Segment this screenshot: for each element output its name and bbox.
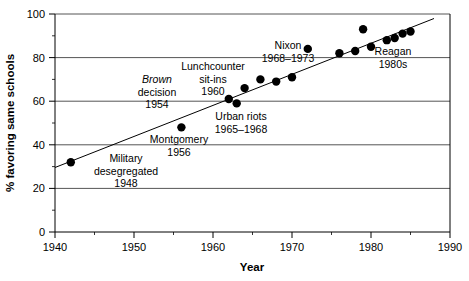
data-point — [398, 29, 406, 37]
data-point — [288, 73, 296, 81]
annotation-urban-riots-line1: Urban riots — [197, 110, 285, 123]
annotation-urban-riots-line2: 1965–1968 — [197, 123, 285, 136]
x-tick-label-1970: 1970 — [280, 241, 304, 253]
x-tick-label-1940: 1940 — [43, 241, 67, 253]
data-point — [359, 25, 367, 33]
annotation-lunchcounter-line1: Lunchcounter — [172, 60, 254, 73]
y-tick-label-40: 40 — [33, 139, 45, 151]
y-tick-label-80: 80 — [33, 52, 45, 64]
y-tick-marks — [49, 14, 55, 232]
annotation-lunchcounter-line3: 1960 — [172, 85, 254, 98]
annotation-brown-line3: 1954 — [122, 98, 192, 111]
y-axis-title: % favoring same schools — [4, 54, 16, 192]
x-tick-labels: 1940 1950 1960 1970 1980 1990 — [43, 241, 462, 253]
annotation-urban-riots: Urban riots 1965–1968 — [197, 110, 285, 135]
annotation-reagan-line1: Reagan — [358, 45, 428, 58]
y-tick-label-20: 20 — [33, 182, 45, 194]
data-point — [391, 34, 399, 42]
data-point — [335, 49, 343, 57]
x-axis-title: Year — [240, 261, 265, 273]
x-tick-label-1960: 1960 — [201, 241, 225, 253]
annotation-reagan: Reagan 1980s — [358, 45, 428, 70]
chart-figure: 100 80 60 40 20 0 1940 1950 1960 1970 19… — [0, 0, 469, 281]
data-point — [383, 36, 391, 44]
annotation-nixon-line2: 1968–1973 — [246, 52, 330, 65]
y-tick-label-100: 100 — [27, 8, 45, 20]
data-point — [67, 158, 75, 166]
data-point — [256, 75, 264, 83]
annotation-military-line2: desegregated — [78, 165, 174, 178]
data-point — [177, 123, 185, 131]
y-tick-label-0: 0 — [39, 226, 45, 238]
data-point — [233, 99, 241, 107]
annotation-nixon-line1: Nixon — [246, 39, 330, 52]
x-tick-label-1980: 1980 — [359, 241, 383, 253]
annotation-lunchcounter-line2: sit-ins — [172, 73, 254, 86]
annotation-nixon: Nixon 1968–1973 — [246, 39, 330, 64]
x-tick-label-1950: 1950 — [122, 241, 146, 253]
annotation-montgomery: Montgomery 1956 — [134, 133, 224, 158]
data-point — [406, 27, 414, 35]
y-tick-label-60: 60 — [33, 95, 45, 107]
data-point — [272, 77, 280, 85]
annotation-military-line3: 1948 — [78, 177, 174, 190]
x-tick-marks — [55, 232, 450, 238]
annotation-lunchcounter-sit-ins: Lunchcounter sit-ins 1960 — [172, 60, 254, 98]
x-tick-label-1990: 1990 — [438, 241, 462, 253]
scatter-plot: 100 80 60 40 20 0 1940 1950 1960 1970 19… — [0, 0, 469, 281]
annotation-montgomery-line2: 1956 — [134, 146, 224, 159]
y-tick-labels: 100 80 60 40 20 0 — [27, 8, 45, 238]
annotation-reagan-line2: 1980s — [358, 58, 428, 71]
